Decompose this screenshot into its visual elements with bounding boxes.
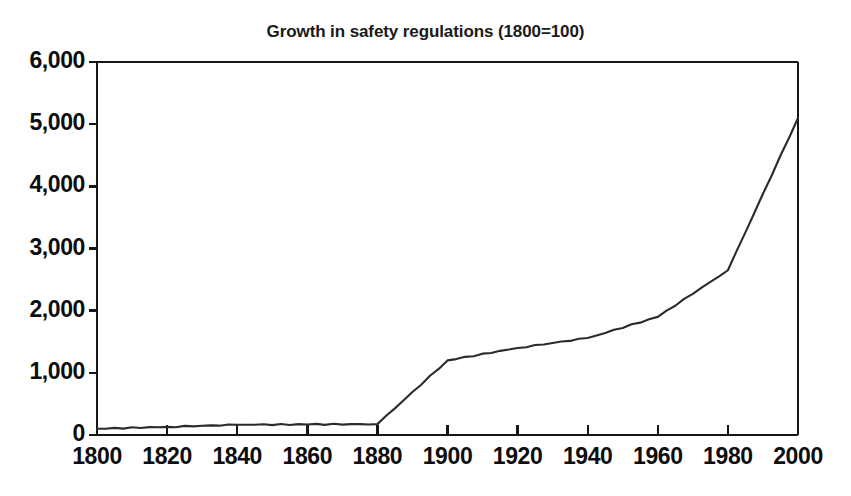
data-series (97, 118, 798, 429)
y-tick-label: 2,000 (0, 296, 85, 323)
series-line (97, 118, 798, 429)
axes (97, 62, 798, 435)
chart-figure: Growth in safety regulations (1800=100) … (0, 0, 851, 496)
y-tick-label: 5,000 (0, 109, 85, 136)
y-tick-label: 1,000 (0, 358, 85, 385)
y-tick-label: 4,000 (0, 171, 85, 198)
axis-ticks (89, 62, 798, 435)
plot-area (0, 0, 851, 496)
x-tick-label: 2000 (748, 443, 848, 470)
y-tick-label: 3,000 (0, 234, 85, 261)
y-tick-label: 6,000 (0, 47, 85, 74)
